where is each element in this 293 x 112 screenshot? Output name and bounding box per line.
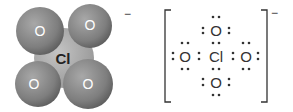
right-bracket [261,10,267,102]
oxygen-label: O [83,76,94,92]
chlorine-center: Cl [209,48,223,65]
left-bracket [165,10,171,102]
oxygen-left: O [179,48,191,65]
oxygen-label: O [29,76,40,92]
oxygen-label: O [35,23,46,39]
ion-charge: − [124,7,131,21]
oxygen-top: O [210,22,222,39]
oxygen-bottom: O [210,74,222,91]
chlorine-label: Cl [56,50,71,67]
ion-charge: − [271,6,278,20]
lewis-structure: − O O Cl O O [140,0,293,112]
oxygen-label: O [85,17,96,33]
oxygen-right: O [240,48,252,65]
space-filling-model: O O O O Cl − [0,0,140,112]
